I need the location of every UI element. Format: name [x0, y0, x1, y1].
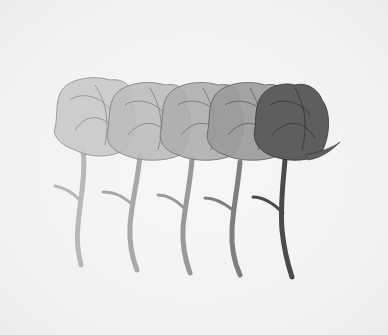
roses-illustration [0, 0, 388, 335]
rose-5 [253, 84, 340, 277]
artwork-canvas [0, 0, 388, 335]
